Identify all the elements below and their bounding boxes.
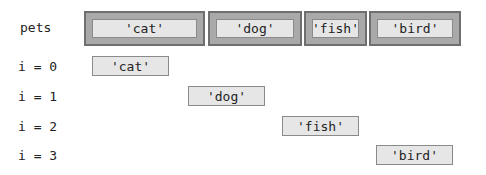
iteration-value-1: 'dog'	[188, 86, 265, 106]
iteration-value-0: 'cat'	[92, 56, 169, 76]
iteration-value-3: 'bird'	[376, 145, 453, 165]
array-element-1: 'dog'	[216, 19, 294, 38]
array-slot-3: 'bird'	[369, 11, 461, 46]
iteration-label-2: i = 2	[18, 119, 57, 135]
iteration-label-3: i = 3	[18, 148, 57, 164]
array-element-0: 'cat'	[92, 19, 197, 38]
array-name-label: pets	[20, 20, 51, 36]
array-slot-1: 'dog'	[208, 11, 302, 46]
array-slot-2: 'fish'	[304, 11, 367, 46]
iteration-value-2: 'fish'	[282, 116, 359, 136]
array-element-3: 'bird'	[377, 19, 453, 38]
array-element-2: 'fish'	[312, 19, 359, 38]
array-slot-0: 'cat'	[84, 11, 205, 46]
iteration-label-1: i = 1	[18, 89, 57, 105]
iteration-label-0: i = 0	[18, 59, 57, 75]
